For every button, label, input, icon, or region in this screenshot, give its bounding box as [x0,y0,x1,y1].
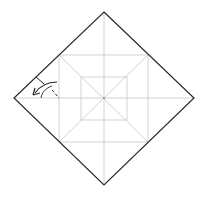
origami-diagram [0,0,202,199]
center-point [103,97,105,99]
background [0,0,202,199]
